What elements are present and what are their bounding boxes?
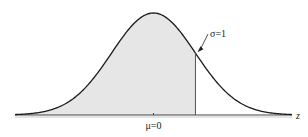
sigma-arrowhead	[197, 46, 203, 52]
sigma-label: σ=1	[210, 28, 226, 39]
shaded-area	[15, 13, 195, 115]
sigma-arrow	[200, 34, 208, 49]
normal-distribution-chart: μ=0 σ=1 z	[0, 0, 308, 137]
mean-label: μ=0	[145, 120, 161, 131]
x-axis-label: z	[295, 110, 300, 121]
